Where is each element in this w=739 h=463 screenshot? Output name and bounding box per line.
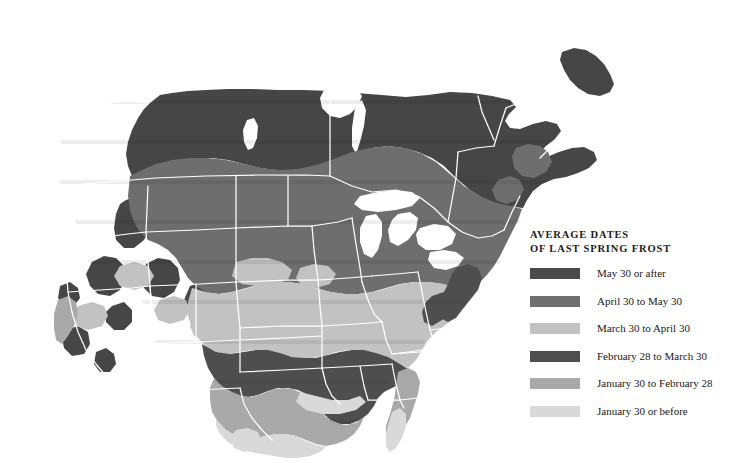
legend-title-line-2: OF LAST SPRING FROST bbox=[530, 242, 735, 256]
legend-item-january-30-or-before[interactable]: January 30 or before bbox=[530, 406, 735, 417]
legend-swatch-january-30-or-before bbox=[530, 406, 580, 417]
legend-item-may-30-or-after[interactable]: May 30 or after bbox=[530, 268, 735, 279]
legend-swatch-january-30-to-february-28 bbox=[530, 378, 580, 389]
legend-title-line-1: AVERAGE DATES bbox=[530, 228, 735, 242]
legend-label-january-30-to-february-28: January 30 to February 28 bbox=[597, 378, 712, 389]
legend-swatch-may-30-or-after bbox=[530, 268, 580, 279]
legend-title: AVERAGE DATES OF LAST SPRING FROST bbox=[530, 228, 735, 255]
legend-item-february-28-to-march-30[interactable]: February 28 to March 30 bbox=[530, 351, 735, 362]
map-legend: AVERAGE DATES OF LAST SPRING FROST May 3… bbox=[530, 228, 735, 417]
legend-item-january-30-to-february-28[interactable]: January 30 to February 28 bbox=[530, 378, 735, 389]
legend-label-march-30-to-april-30: March 30 to April 30 bbox=[597, 323, 690, 334]
frost-date-map-figure: AVERAGE DATES OF LAST SPRING FROST May 3… bbox=[0, 0, 739, 463]
legend-swatch-march-30-to-april-30 bbox=[530, 323, 580, 334]
legend-swatch-april-30-to-may-30 bbox=[530, 296, 580, 307]
legend-label-february-28-to-march-30: February 28 to March 30 bbox=[597, 351, 707, 362]
legend-label-april-30-to-may-30: April 30 to May 30 bbox=[597, 296, 682, 307]
legend-label-january-30-or-before: January 30 or before bbox=[597, 406, 688, 417]
legend-swatch-february-28-to-march-30 bbox=[530, 351, 580, 362]
legend-label-may-30-or-after: May 30 or after bbox=[597, 268, 666, 279]
legend-item-april-30-to-may-30[interactable]: April 30 to May 30 bbox=[530, 296, 735, 307]
legend-item-march-30-to-april-30[interactable]: March 30 to April 30 bbox=[530, 323, 735, 334]
legend-items: May 30 or after April 30 to May 30 March… bbox=[530, 268, 735, 417]
